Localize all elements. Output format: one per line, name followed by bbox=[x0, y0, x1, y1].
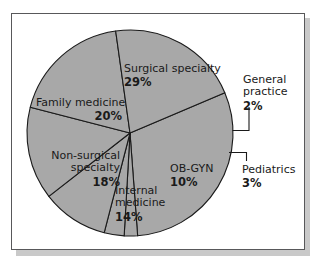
slice-value-text: 18% bbox=[34, 176, 120, 189]
slice-label-general-practice: General practice 2% bbox=[243, 74, 287, 113]
slice-label-text-line2: medicine bbox=[115, 197, 165, 209]
slice-label-text: OB-GYN bbox=[170, 163, 214, 175]
leader-line-pediatrics bbox=[229, 153, 247, 162]
slice-label-pediatrics: Pediatrics 3% bbox=[242, 164, 295, 190]
slice-label-surgical-specialty: Surgical specialty 29% bbox=[124, 63, 221, 89]
slice-value-text: 29% bbox=[124, 76, 221, 89]
slice-value-text: 2% bbox=[243, 100, 287, 113]
slice-label-text-line2: practice bbox=[243, 86, 287, 98]
slice-label-ob-gyn: OB-GYN 10% bbox=[170, 163, 214, 189]
slice-label-text: Pediatrics bbox=[242, 164, 295, 176]
slice-label-internal-medicine: Internal medicine 14% bbox=[115, 185, 165, 224]
chart-plot-area: Surgical specialty 29% Family medicine 2… bbox=[0, 0, 320, 273]
slice-value-text: 20% bbox=[36, 110, 122, 123]
pie-chart-figure: Surgical specialty 29% Family medicine 2… bbox=[0, 0, 320, 273]
slice-label-non-surgical-specialty: Non-surgical specialty 18% bbox=[34, 150, 120, 189]
slice-label-text: Surgical specialty bbox=[124, 63, 221, 75]
slice-value-text: 14% bbox=[115, 211, 165, 224]
slice-value-text: 10% bbox=[170, 176, 214, 189]
pie-svg bbox=[0, 0, 320, 273]
slice-value-text: 3% bbox=[242, 177, 295, 190]
slice-label-text: Family medicine bbox=[36, 97, 122, 109]
slice-label-text-line2: specialty bbox=[34, 162, 120, 174]
slice-label-family-medicine: Family medicine 20% bbox=[36, 97, 122, 123]
